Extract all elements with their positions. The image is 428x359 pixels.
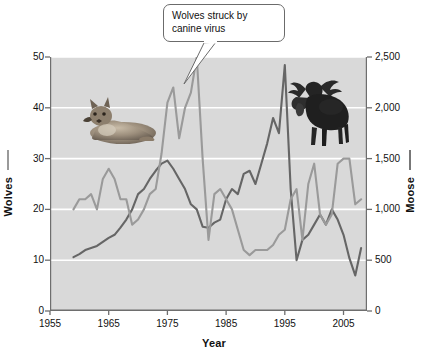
wolves-axis-legend: Wolves <box>2 150 14 217</box>
annotation-callout: Wolves struck by canine virus <box>163 4 285 42</box>
wolves-tick-0: 0 <box>18 305 44 316</box>
moose-tick-2500: 2,500 <box>375 51 409 62</box>
wolf-photo <box>77 89 158 149</box>
wolves-tick-40: 40 <box>18 102 44 113</box>
wolves-tick-50: 50 <box>18 51 44 62</box>
wolves-tick-30: 30 <box>18 153 44 164</box>
year-axis-title: Year <box>0 337 428 349</box>
year-tick-2005: 2005 <box>324 318 364 329</box>
year-tick-1985: 1985 <box>206 318 246 329</box>
chart-figure: Wolves Moose Year 504030201002,5002,0001… <box>0 0 428 359</box>
moose-photo <box>286 69 360 149</box>
plot-area <box>50 57 367 311</box>
year-tick-1955: 1955 <box>30 318 70 329</box>
moose-tick-1000: 1,000 <box>375 203 409 214</box>
moose-tick-1500: 1,500 <box>375 153 409 164</box>
year-tick-1995: 1995 <box>265 318 305 329</box>
wolves-tick-10: 10 <box>18 254 44 265</box>
moose-tick-0: 0 <box>375 305 409 316</box>
year-tick-1965: 1965 <box>89 318 129 329</box>
wolves-tick-20: 20 <box>18 203 44 214</box>
moose-tick-500: 500 <box>375 254 409 265</box>
wolves-axis-title: Wolves <box>2 177 14 217</box>
callout-line-1: Wolves struck by <box>172 10 277 23</box>
callout-bubble: Wolves struck by canine virus <box>163 4 285 42</box>
moose-tick-2000: 2,000 <box>375 102 409 113</box>
moose-line-swatch <box>409 150 411 170</box>
callout-line-2: canine virus <box>172 23 277 36</box>
year-tick-1975: 1975 <box>147 318 187 329</box>
wolves-line-swatch <box>7 150 9 170</box>
